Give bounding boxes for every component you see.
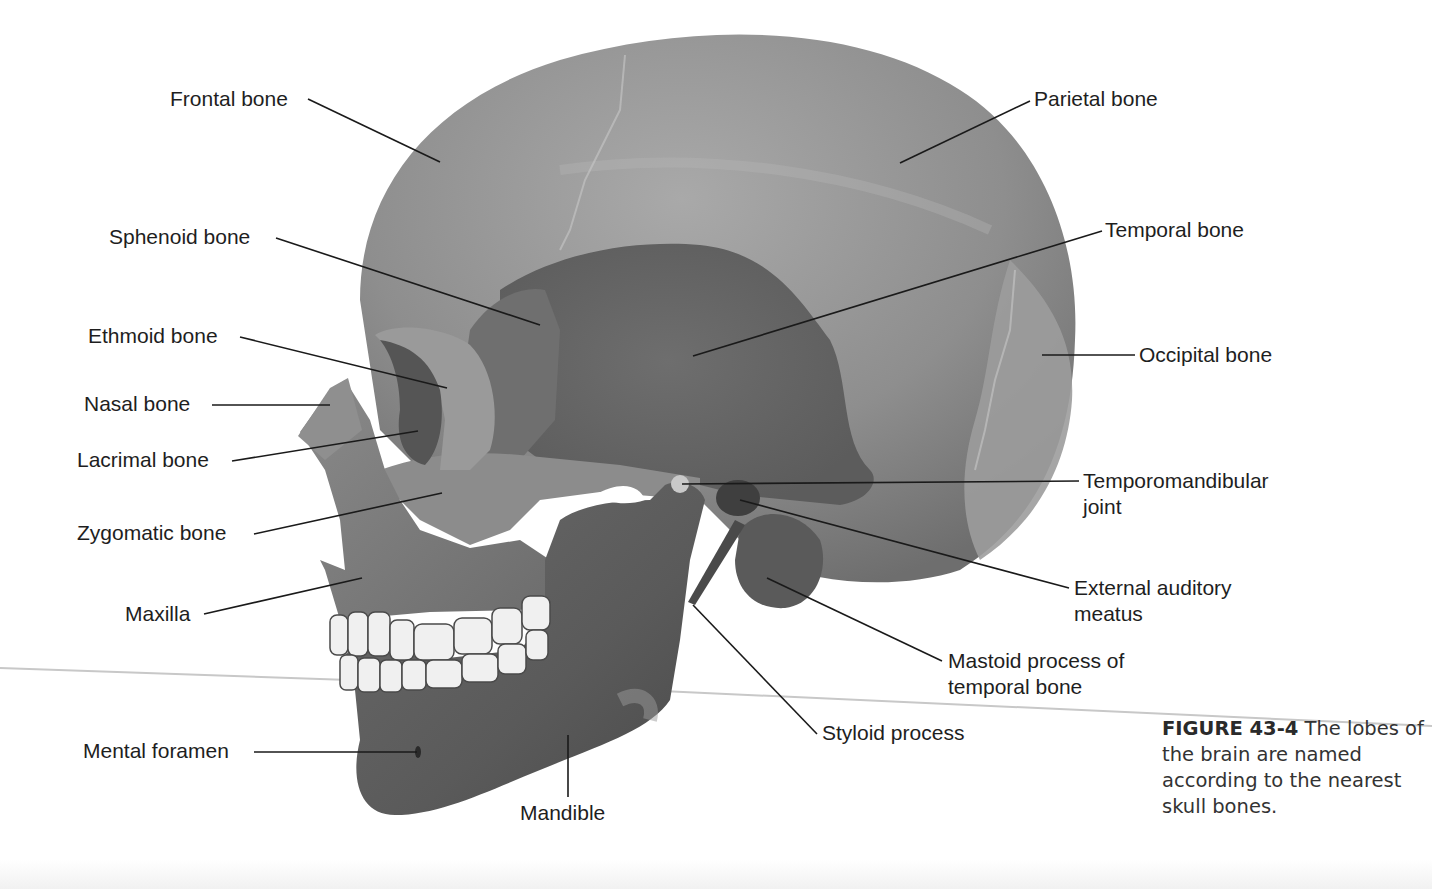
label-nasal-bone: Nasal bone	[84, 391, 190, 417]
label-tmj-line2: joint	[1083, 494, 1269, 520]
label-lacrimal-bone: Lacrimal bone	[77, 447, 209, 473]
label-styloid-process: Styloid process	[822, 720, 964, 746]
skull-diagram: Frontal bone Parietal bone Sphenoid bone…	[0, 0, 1432, 889]
label-occipital-bone: Occipital bone	[1139, 342, 1272, 368]
page-bottom-shadow	[0, 860, 1432, 889]
label-tmj: Temporomandibular joint	[1083, 468, 1269, 520]
label-mandible: Mandible	[520, 800, 605, 826]
label-mastoid-process: Mastoid process of temporal bone	[948, 648, 1124, 700]
label-mastoid-line1: Mastoid process of	[948, 648, 1124, 674]
label-eam-line1: External auditory	[1074, 575, 1232, 601]
label-eam-line2: meatus	[1074, 601, 1232, 627]
ear-canal-shape	[716, 480, 760, 516]
label-zygomatic-bone: Zygomatic bone	[77, 520, 226, 546]
label-external-auditory-meatus: External auditory meatus	[1074, 575, 1232, 627]
label-parietal-bone: Parietal bone	[1034, 86, 1158, 112]
label-tmj-line1: Temporomandibular	[1083, 468, 1269, 494]
label-mastoid-line2: temporal bone	[948, 674, 1124, 700]
label-temporal-bone: Temporal bone	[1105, 217, 1244, 243]
label-ethmoid-bone: Ethmoid bone	[88, 323, 218, 349]
label-frontal-bone: Frontal bone	[170, 86, 288, 112]
label-sphenoid-bone: Sphenoid bone	[109, 224, 250, 250]
label-maxilla: Maxilla	[125, 601, 190, 627]
figure-number: FIGURE 43-4	[1162, 717, 1298, 740]
label-mental-foramen: Mental foramen	[83, 738, 229, 764]
figure-caption: FIGURE 43-4 The lobes of the brain are n…	[1162, 716, 1432, 820]
